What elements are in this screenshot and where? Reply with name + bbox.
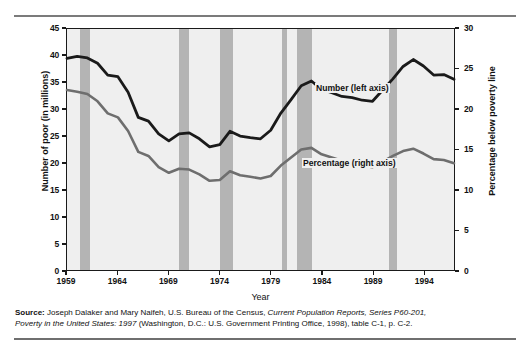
y-tick-label: 45 [37,24,59,33]
y-tick-mark [62,189,66,190]
y-tick-label: 10 [37,213,59,222]
y-tick-mark [62,81,66,82]
y-axis-left-title: Number of poor (in millions) [40,51,50,211]
x-tick-label: 1994 [404,276,444,286]
y-tick-mark [455,149,459,150]
x-tick-mark [117,271,118,275]
x-tick-mark [270,271,271,275]
x-tick-mark [168,271,169,275]
y-tick-mark [455,270,459,271]
y-tick-mark [62,27,66,28]
top-rule [14,15,516,17]
y-tick-mark [62,243,66,244]
y-tick-label: 5 [464,226,486,235]
y-tick-mark [62,216,66,217]
source-text-1: Joseph Dalaker and Mary Naifeh, U.S. Bur… [45,308,268,317]
x-axis-title: Year [66,292,455,302]
source-italic-1: Current Population Reports, Series P60-2… [268,308,427,317]
x-tick-mark [373,271,374,275]
y-tick-label: 10 [464,186,486,195]
x-tick-label: 1974 [200,276,240,286]
series-layer [67,29,454,270]
series-label-percentage: Percentage (right axis) [302,158,397,168]
y-tick-mark [62,108,66,109]
series-line [67,56,454,147]
y-tick-mark [455,108,459,109]
y-tick-mark [455,27,459,28]
y-tick-label: 5 [37,240,59,249]
source-italic-2: Poverty in the United States: 1997 [15,319,136,328]
source-note: Source: Joseph Dalaker and Mary Naifeh, … [15,308,515,329]
x-tick-label: 1989 [353,276,393,286]
x-tick-label: 1959 [46,276,86,286]
y-tick-mark [62,54,66,55]
y-tick-mark [62,162,66,163]
y-tick-label: 20 [464,105,486,114]
y-tick-label: 15 [464,145,486,154]
y-axis-right-title: Percentage below poverty line [487,51,497,211]
y-tick-mark [62,135,66,136]
series-label-number: Number (left axis) [315,83,390,93]
y-tick-label: 0 [464,267,486,276]
y-tick-mark [455,230,459,231]
y-tick-mark [455,68,459,69]
x-tick-label: 1979 [251,276,291,286]
y-tick-mark [455,189,459,190]
x-tick-label: 1984 [302,276,342,286]
y-tick-label: 0 [37,267,59,276]
poverty-figure: 051015202530354045 051015202530 19591964… [0,0,530,347]
source-label: Source: [15,308,45,317]
y-tick-label: 30 [464,24,486,33]
y-tick-label: 25 [464,64,486,73]
x-tick-label: 1964 [97,276,137,286]
source-text-2: (Washington, D.C.: U.S. Government Print… [136,319,412,328]
bottom-rule [14,338,516,340]
x-tick-mark [219,271,220,275]
x-tick-mark [65,271,66,275]
plot-area [66,28,455,271]
x-tick-mark [321,271,322,275]
x-tick-mark [424,271,425,275]
x-tick-label: 1969 [148,276,188,286]
chart-area: 051015202530354045 051015202530 19591964… [14,20,516,292]
